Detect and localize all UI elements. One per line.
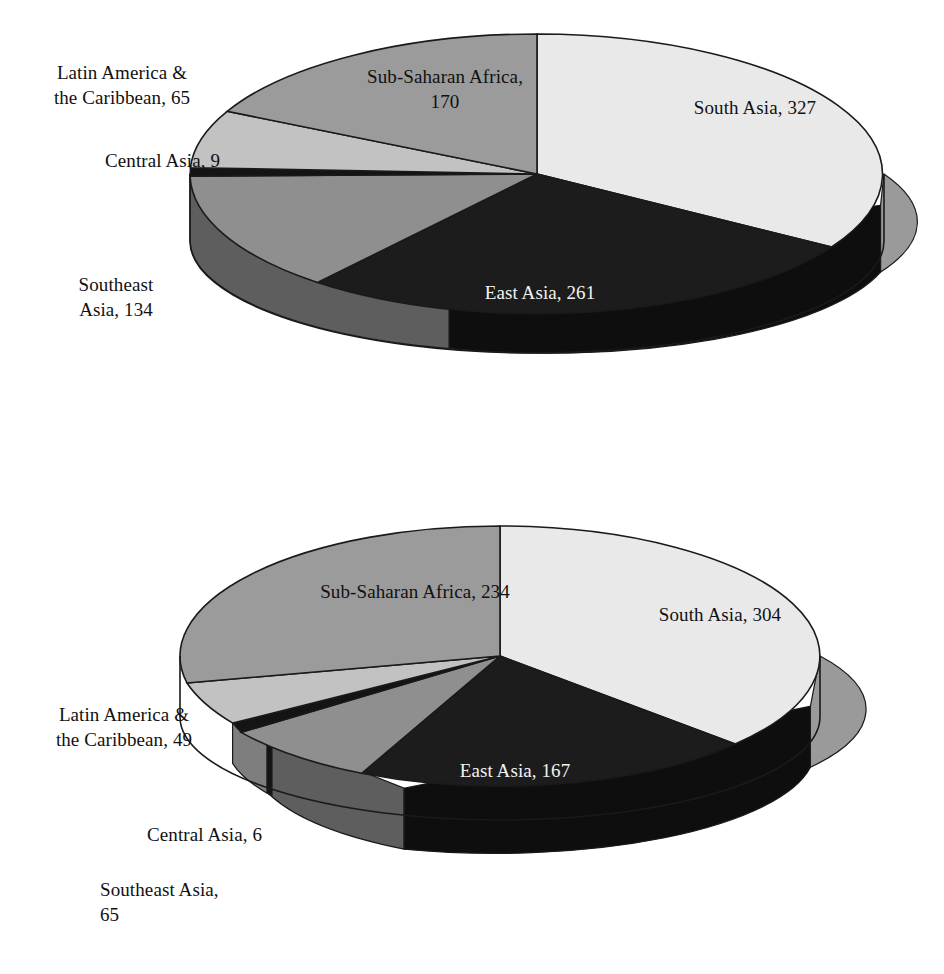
top-callout-latin-america: Latin America & the Caribbean, 65 bbox=[14, 60, 230, 110]
bottom-callout-southeast-asia: Southeast Asia, 65 bbox=[100, 877, 330, 927]
bottom-slice-sub-saharan-africa bbox=[180, 526, 500, 683]
bottom-label-south-asia: South Asia, 304 bbox=[600, 602, 840, 627]
top-label-east-asia: East Asia, 261 bbox=[420, 280, 660, 305]
top-slice-side-south-asia bbox=[881, 174, 918, 272]
top-label-south-asia: South Asia, 327 bbox=[640, 95, 870, 120]
bottom-label-sub-saharan-africa: Sub-Saharan Africa, 234 bbox=[255, 579, 575, 604]
top-callout-southeast-asia: Southeast Asia, 134 bbox=[26, 272, 206, 322]
top-label-sub-saharan-africa: Sub-Saharan Africa, 170 bbox=[320, 64, 570, 114]
bottom-slice-side-south-asia bbox=[810, 656, 866, 767]
bottom-callout-latin-america: Latin America & the Caribbean, 49 bbox=[16, 702, 232, 752]
top-callout-central-asia: Central Asia, 9 bbox=[10, 148, 220, 173]
top-pie-chart: South Asia, 327 East Asia, 261 Sub-Sahar… bbox=[0, 0, 944, 487]
bottom-pie-chart: South Asia, 304 East Asia, 167 Sub-Sahar… bbox=[0, 487, 944, 974]
bottom-callout-central-asia: Central Asia, 6 bbox=[30, 822, 262, 847]
bottom-label-east-asia: East Asia, 167 bbox=[400, 758, 630, 783]
